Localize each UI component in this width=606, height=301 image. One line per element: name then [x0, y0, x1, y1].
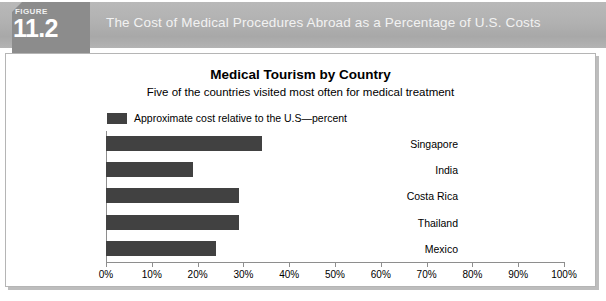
- x-axis-tick: [381, 262, 382, 267]
- figure-banner: The Cost of Medical Procedures Abroad as…: [0, 2, 606, 48]
- figure-banner-title: The Cost of Medical Procedures Abroad as…: [106, 15, 541, 30]
- bar: [106, 136, 262, 151]
- bar-row: Singapore: [106, 131, 564, 157]
- x-axis-tick-label: 40%: [279, 269, 299, 280]
- x-axis-tick-label: 20%: [188, 269, 208, 280]
- x-axis-tick-label: 50%: [325, 269, 345, 280]
- bar-row: Mexico: [106, 236, 564, 262]
- plot-area: SingaporeIndiaCosta RicaThailandMexico 0…: [6, 54, 597, 288]
- x-axis-tick: [106, 262, 107, 267]
- bar-series: SingaporeIndiaCosta RicaThailandMexico: [106, 131, 564, 262]
- bar-category-label: Singapore: [410, 131, 458, 157]
- figure-badge-number: 11.2: [13, 16, 58, 41]
- bar: [106, 162, 193, 177]
- x-axis-tick-label: 30%: [233, 269, 253, 280]
- bar: [106, 215, 239, 230]
- x-axis-tick: [564, 262, 565, 267]
- x-axis-ticks: 0%10%20%30%40%50%60%70%80%90%100%: [106, 262, 564, 284]
- x-axis-tick-label: 60%: [371, 269, 391, 280]
- chart-panel: Medical Tourism by Country Five of the c…: [5, 53, 596, 287]
- x-axis-tick-label: 100%: [551, 269, 577, 280]
- bar-category-label: Costa Rica: [407, 183, 458, 209]
- bar-category-label: Thailand: [418, 210, 458, 236]
- bar-row: Thailand: [106, 210, 564, 236]
- x-axis-tick: [518, 262, 519, 267]
- x-axis-tick: [198, 262, 199, 267]
- x-axis-tick-label: 80%: [462, 269, 482, 280]
- bar: [106, 188, 239, 203]
- bar: [106, 241, 216, 256]
- bar-row: India: [106, 157, 564, 183]
- x-axis-tick-label: 90%: [508, 269, 528, 280]
- figure-root: The Cost of Medical Procedures Abroad as…: [0, 0, 606, 301]
- bar-category-label: Mexico: [425, 236, 458, 262]
- bar-category-label: India: [435, 157, 458, 183]
- x-axis-tick: [335, 262, 336, 267]
- x-axis-tick-label: 0%: [99, 269, 113, 280]
- x-axis-tick: [152, 262, 153, 267]
- x-axis-tick-label: 10%: [142, 269, 162, 280]
- x-axis-tick: [472, 262, 473, 267]
- x-axis-tick: [243, 262, 244, 267]
- x-axis-tick: [289, 262, 290, 267]
- x-axis-tick-label: 70%: [417, 269, 437, 280]
- bar-row: Costa Rica: [106, 183, 564, 209]
- x-axis-tick: [427, 262, 428, 267]
